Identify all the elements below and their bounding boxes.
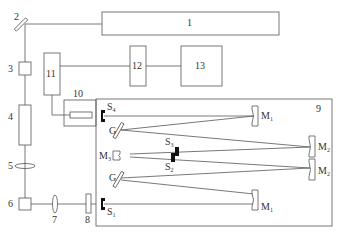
label-9: 9 bbox=[316, 104, 321, 114]
label-m1-bottom: M1 bbox=[261, 202, 273, 213]
component-8-plate bbox=[86, 194, 91, 213]
label-g-bottom: G bbox=[109, 173, 116, 183]
mirror-m2-top bbox=[309, 136, 315, 157]
label-12: 12 bbox=[132, 61, 142, 71]
label-1: 1 bbox=[187, 18, 192, 28]
label-s3: S3 bbox=[165, 137, 174, 148]
label-m2-bottom: M2 bbox=[318, 166, 330, 177]
component-10-box bbox=[64, 100, 96, 126]
mirror-m3 bbox=[113, 151, 120, 160]
label-7: 7 bbox=[52, 215, 57, 225]
lens-7 bbox=[53, 195, 58, 213]
label-2: 2 bbox=[14, 12, 19, 22]
label-m3: M3 bbox=[99, 151, 111, 162]
label-5: 5 bbox=[8, 161, 13, 171]
component-3-box bbox=[19, 62, 31, 75]
component-6-box bbox=[19, 198, 31, 210]
label-s4: S4 bbox=[107, 102, 116, 113]
label-10: 10 bbox=[73, 89, 83, 99]
component-4-box bbox=[19, 105, 31, 145]
label-s1: S1 bbox=[107, 207, 116, 218]
diagram-lines bbox=[0, 0, 339, 236]
label-4: 4 bbox=[8, 112, 13, 122]
slit-s3 bbox=[175, 147, 179, 156]
optical-diagram: 1 2 3 4 5 6 7 8 9 10 11 12 13 S4 S1 S3 S… bbox=[0, 0, 339, 236]
label-m2-top: M2 bbox=[318, 142, 330, 153]
mirror-m1-bottom bbox=[252, 190, 258, 210]
label-3: 3 bbox=[8, 64, 13, 74]
label-11: 11 bbox=[46, 69, 56, 79]
label-s2: S2 bbox=[165, 162, 174, 173]
label-8: 8 bbox=[85, 215, 90, 225]
label-6: 6 bbox=[8, 199, 13, 209]
label-13: 13 bbox=[195, 61, 205, 71]
label-m1-top: M1 bbox=[261, 111, 273, 122]
component-10-inner bbox=[70, 112, 92, 118]
slit-s2 bbox=[171, 153, 175, 162]
label-g-top: G bbox=[109, 126, 116, 136]
mirror-m2-bottom bbox=[309, 159, 315, 180]
